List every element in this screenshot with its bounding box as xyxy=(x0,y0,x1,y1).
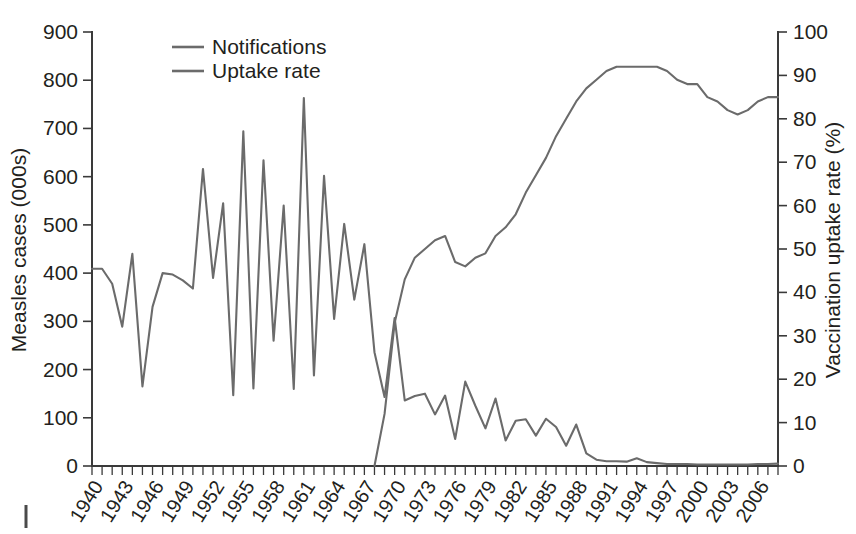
y-axis-right-tick-label: 100 xyxy=(793,20,828,43)
y-axis-right-tick-label: 30 xyxy=(793,324,816,347)
chart-canvas: Measles cases (000s) Vaccination uptake … xyxy=(0,0,856,534)
y-axis-right-tick-label: 50 xyxy=(793,237,816,260)
y-axis-left-tick-label: 200 xyxy=(43,358,78,381)
y-axis-left: 0100200300400500600700800900 xyxy=(43,20,92,477)
y-axis-left-tick-label: 400 xyxy=(43,261,78,284)
y-axis-right-tick-label: 90 xyxy=(793,63,816,86)
chart-legend: NotificationsUptake rate xyxy=(172,35,326,82)
y-axis-left-tick-label: 500 xyxy=(43,213,78,236)
x-axis-tick-label: 2006 xyxy=(731,476,773,525)
y-axis-right-title: Vaccination uptake rate (%) xyxy=(821,122,844,378)
y-axis-left-tick-label: 600 xyxy=(43,165,78,188)
y-axis-left-tick-label: 0 xyxy=(66,454,78,477)
legend-label: Uptake rate xyxy=(212,59,321,82)
y-axis-left-tick-label: 300 xyxy=(43,309,78,332)
series-line-uptake-rate xyxy=(374,67,778,466)
y-axis-right-tick-label: 0 xyxy=(793,454,805,477)
y-axis-left-tick-label: 900 xyxy=(43,20,78,43)
x-axis: 1940194319461949195219551958196119641967… xyxy=(65,466,778,526)
y-axis-left-tick-label: 700 xyxy=(43,116,78,139)
series-line-notifications xyxy=(92,98,778,464)
y-axis-right-tick-label: 60 xyxy=(793,194,816,217)
y-axis-left-title: Measles cases (000s) xyxy=(7,148,30,352)
y-axis-right-tick-label: 40 xyxy=(793,280,816,303)
y-axis-right-tick-label: 70 xyxy=(793,150,816,173)
chart-series-group xyxy=(92,67,778,466)
legend-label: Notifications xyxy=(212,35,326,58)
y-axis-right-tick-label: 80 xyxy=(793,107,816,130)
y-axis-left-tick-label: 100 xyxy=(43,406,78,429)
y-axis-right-tick-label: 20 xyxy=(793,367,816,390)
y-axis-right-tick-label: 10 xyxy=(793,411,816,434)
measles-chart-figure: Measles cases (000s) Vaccination uptake … xyxy=(0,0,856,534)
y-axis-left-tick-label: 800 xyxy=(43,68,78,91)
